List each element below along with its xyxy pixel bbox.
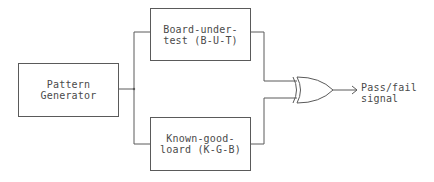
board-under-test-label: Board-under- test (B-U-T)	[163, 24, 238, 46]
pass-fail-label-line2: signal	[361, 93, 398, 104]
pass-fail-label-line1: Pass/fail	[361, 82, 417, 93]
xor-gate-body	[297, 77, 333, 103]
board-test-diagram: Pattern Generator Board-under- test (B-U…	[0, 0, 434, 182]
pattern-generator-block: Pattern Generator	[18, 63, 119, 117]
known-good-board-label: Known-good- loard (K-G-B)	[160, 133, 241, 155]
pass-fail-signal-label: Pass/fail signal	[361, 82, 417, 104]
pattern-generator-label: Pattern Generator	[41, 79, 97, 101]
known-good-board-label-line1: Known-good-	[166, 133, 234, 144]
pattern-generator-label-line2: Generator	[41, 90, 97, 101]
board-under-test-block: Board-under- test (B-U-T)	[150, 8, 251, 61]
known-good-board-block: Known-good- loard (K-G-B)	[150, 117, 251, 171]
wire-but-to-xor	[250, 32, 297, 81]
board-under-test-label-line2: test (B-U-T)	[163, 35, 238, 46]
branch-junction-dot	[133, 88, 135, 90]
wire-kgb-to-xor	[250, 98, 297, 144]
board-under-test-label-line1: Board-under-	[163, 24, 238, 35]
pattern-generator-label-line1: Pattern	[47, 79, 91, 90]
known-good-board-label-line2: loard (K-G-B)	[160, 144, 241, 155]
